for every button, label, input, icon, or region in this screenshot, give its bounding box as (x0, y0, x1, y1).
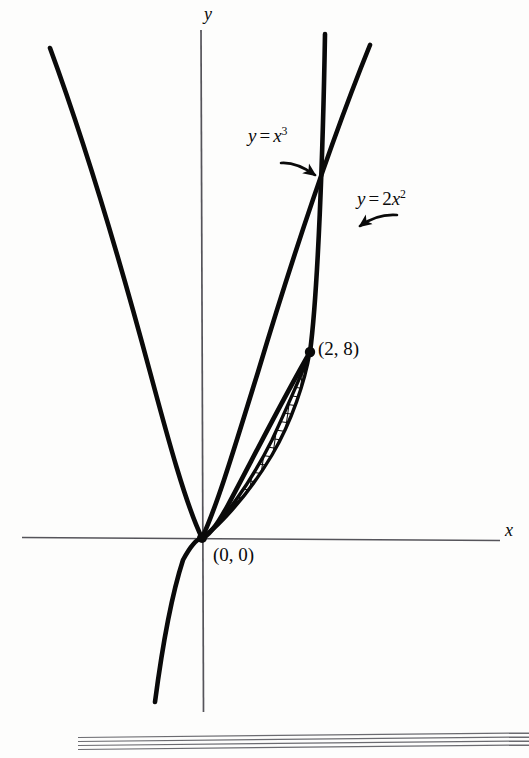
point-marker-0-0 (197, 533, 207, 543)
parabola-label-base: x (392, 188, 400, 209)
y-axis-label: y (204, 4, 212, 25)
parabola-label-coefficient: 2 (382, 188, 392, 209)
point-marker-2-8 (305, 347, 315, 357)
page-rule (78, 733, 529, 738)
page-rule (78, 741, 529, 746)
curve-label-cubic: y=x3 (248, 125, 287, 147)
arrow-to-parabola (360, 215, 397, 226)
math-figure (0, 0, 529, 758)
curve-cubic (155, 34, 325, 702)
cubic-label-equals: = (256, 125, 273, 146)
y-axis (201, 30, 204, 712)
page-rules (78, 733, 529, 750)
curve-label-parabola: y=2x2 (357, 188, 406, 210)
point-label-0-0: (0, 0) (213, 544, 254, 566)
x-axis-label: x (505, 520, 513, 541)
point-label-2-8: (2, 8) (318, 338, 359, 360)
page-rule (78, 745, 529, 750)
parabola-label-equals: = (365, 188, 382, 209)
page-rule (78, 737, 529, 742)
cubic-label-base: x (273, 125, 281, 146)
cubic-label-exponent: 3 (282, 125, 288, 138)
arrow-to-cubic (281, 163, 315, 175)
parabola-label-exponent: 2 (400, 188, 406, 201)
x-axis (22, 538, 500, 541)
